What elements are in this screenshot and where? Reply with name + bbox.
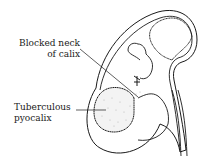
label-tuberculous-pyocalix: Tuberculous pyocalix [14, 102, 71, 124]
label-blocked-neck-line1: Blocked neck [14, 38, 80, 49]
kidney-diagram: Blocked neck of calix Tuberculous pyocal… [0, 0, 203, 167]
kidney-outline [87, 10, 197, 153]
label-blocked-neck: Blocked neck of calix [14, 38, 80, 60]
blocked-neck-marks [134, 76, 140, 86]
label-tb-line2: pyocalix [14, 113, 71, 124]
label-blocked-neck-line2: of calix [14, 49, 80, 60]
label-tb-line1: Tuberculous [14, 102, 71, 113]
kidney-illustration [0, 0, 203, 167]
renal-pelvis [138, 94, 169, 141]
upper-calix [150, 18, 192, 60]
middle-calix [128, 43, 153, 78]
